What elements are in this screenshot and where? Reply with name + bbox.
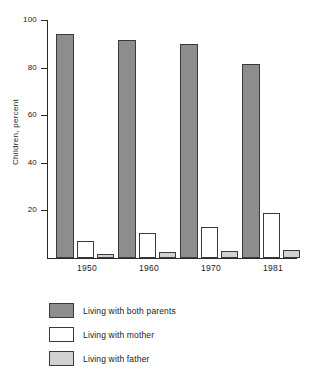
bar-1970-father [221, 251, 238, 258]
y-tick-mark-100 [41, 20, 47, 21]
bar-1960-mother [139, 233, 156, 258]
x-axis-line [47, 258, 297, 259]
bar-chart-figure: 100 80 60 40 20 Children, percent [0, 0, 316, 370]
bar-1970-both-parents [180, 44, 198, 258]
bar-1950-father [97, 254, 114, 258]
y-tick-label-20: 20 [0, 206, 37, 214]
bar-group-1950 [56, 20, 118, 258]
bar-1981-mother [263, 213, 280, 258]
bar-1950-mother [77, 241, 94, 258]
y-tick-mark-20 [41, 210, 47, 211]
y-tick-mark-60 [41, 115, 47, 116]
bar-1960-both-parents [118, 40, 136, 258]
bar-1981-both-parents [242, 64, 260, 258]
bar-groups [48, 20, 297, 258]
bar-1981-father [283, 250, 300, 258]
legend-label-father: Living with father [83, 354, 149, 364]
legend-item-father: Living with father [49, 351, 299, 370]
legend-swatch-both-parents [49, 303, 74, 318]
y-tick-label-100: 100 [0, 16, 37, 24]
bar-group-1981 [242, 20, 304, 258]
x-tick-label-1981: 1981 [242, 264, 304, 273]
legend-swatch-mother [49, 327, 74, 342]
y-tick-mark-80 [41, 68, 47, 69]
x-tick-label-1960: 1960 [118, 264, 180, 273]
legend-item-mother: Living with mother [49, 327, 299, 346]
legend-item-both-parents: Living with both parents [49, 303, 299, 322]
x-tick-label-1970: 1970 [180, 264, 242, 273]
bar-1960-father [159, 252, 176, 258]
bar-group-1970 [180, 20, 242, 258]
bar-1950-both-parents [56, 34, 74, 258]
bar-group-1960 [118, 20, 180, 258]
y-tick-mark-40 [41, 163, 47, 164]
legend-label-mother: Living with mother [83, 330, 154, 340]
legend-label-both-parents: Living with both parents [83, 306, 176, 316]
legend-swatch-father [49, 351, 74, 366]
y-tick-label-80: 80 [0, 64, 37, 72]
chart-legend: Living with both parents Living with mot… [49, 303, 299, 370]
x-tick-label-1950: 1950 [56, 264, 118, 273]
plot-area: 100 80 60 40 20 Children, percent [0, 0, 316, 292]
y-axis-title: Children, percent [12, 77, 20, 187]
bar-1970-mother [201, 227, 218, 258]
